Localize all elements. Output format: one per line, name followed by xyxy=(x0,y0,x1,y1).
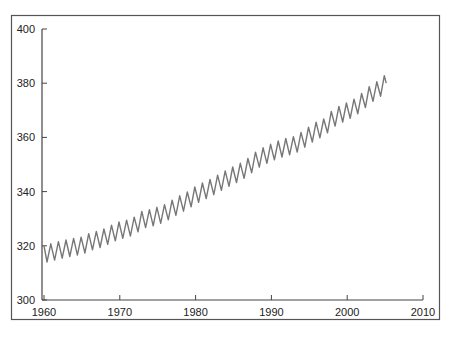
y-tick-label: 300 xyxy=(17,294,35,306)
y-tick-label: 380 xyxy=(17,77,35,89)
y-tick-label: 340 xyxy=(17,186,35,198)
x-tick-label: 2000 xyxy=(335,306,359,318)
x-tick-label: 1980 xyxy=(183,306,207,318)
co2-line-chart: 300320340360380400 196019701980199020002… xyxy=(0,0,455,337)
x-tick-label: 1970 xyxy=(108,306,132,318)
x-tick-label: 1990 xyxy=(259,306,283,318)
x-tick-label: 1960 xyxy=(32,306,56,318)
x-tick-label: 2010 xyxy=(411,306,435,318)
chart-frame xyxy=(12,16,440,320)
y-tick-label: 360 xyxy=(17,131,35,143)
y-tick-label: 320 xyxy=(17,240,35,252)
y-tick-label: 400 xyxy=(17,23,35,35)
